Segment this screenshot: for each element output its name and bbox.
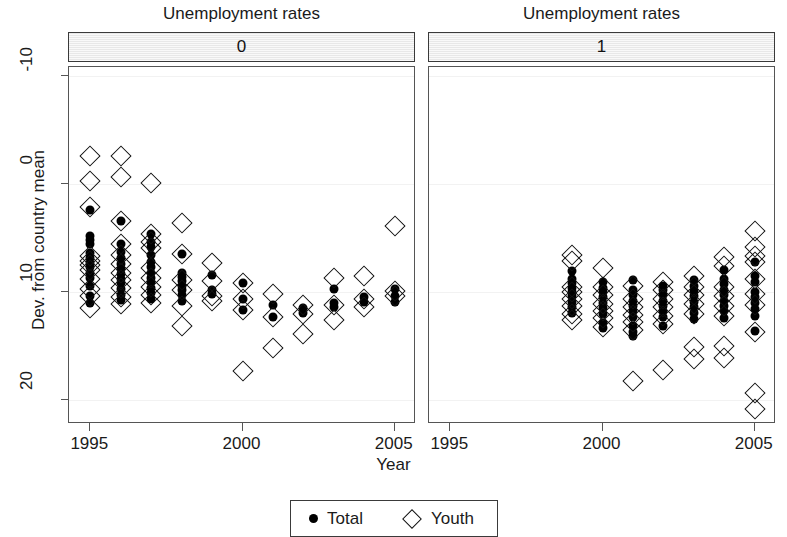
x-tick-mark bbox=[394, 423, 395, 431]
y-tick-label: 20 bbox=[17, 371, 37, 427]
data-point-youth bbox=[232, 360, 253, 381]
gridline bbox=[69, 400, 414, 401]
data-point-youth bbox=[141, 172, 162, 193]
y-tick-mark bbox=[61, 75, 68, 76]
data-point-youth bbox=[171, 315, 192, 336]
data-point-youth bbox=[622, 370, 643, 391]
y-tick-mark bbox=[61, 399, 68, 400]
y-axis-label: Dev. from country mean bbox=[29, 115, 49, 365]
data-point-youth bbox=[110, 145, 131, 166]
data-point-youth bbox=[354, 265, 375, 286]
y-tick-label: -10 bbox=[17, 47, 37, 103]
data-point-youth bbox=[262, 338, 283, 359]
x-tick-label: 2000 bbox=[562, 434, 642, 454]
plot-panel-1 bbox=[428, 66, 775, 423]
data-point-youth bbox=[744, 321, 765, 342]
gridline bbox=[69, 76, 414, 77]
legend-item-total: Total bbox=[309, 509, 363, 529]
x-tick-label: 1995 bbox=[409, 434, 489, 454]
data-point-youth bbox=[262, 306, 283, 327]
strip-label-1: 1 bbox=[429, 37, 774, 57]
data-point-youth bbox=[110, 210, 131, 231]
data-point-youth bbox=[384, 215, 405, 236]
y-tick-mark bbox=[61, 291, 68, 292]
data-point-youth bbox=[714, 347, 735, 368]
gridline bbox=[429, 76, 774, 77]
open-diamond-icon bbox=[402, 509, 422, 529]
panel-title-right: Unemployment rates bbox=[428, 4, 775, 24]
data-point-youth bbox=[80, 196, 101, 217]
data-point-youth bbox=[653, 359, 674, 380]
data-point-youth bbox=[80, 145, 101, 166]
data-point-youth bbox=[293, 324, 314, 345]
x-tick-mark bbox=[89, 423, 90, 431]
data-point-youth bbox=[744, 398, 765, 419]
gridline bbox=[429, 184, 774, 185]
x-tick-mark bbox=[449, 423, 450, 431]
data-point-youth bbox=[323, 267, 344, 288]
data-point-youth bbox=[171, 295, 192, 316]
strip-label-0: 0 bbox=[69, 37, 414, 57]
x-tick-label: 1995 bbox=[49, 434, 129, 454]
data-point-youth bbox=[80, 298, 101, 319]
data-point-youth bbox=[80, 170, 101, 191]
data-point-youth bbox=[262, 284, 283, 305]
x-tick-label: 2005 bbox=[714, 434, 787, 454]
gridline bbox=[429, 400, 774, 401]
x-tick-label: 2000 bbox=[202, 434, 282, 454]
legend-item-youth: Youth bbox=[403, 509, 474, 529]
data-point-youth bbox=[171, 244, 192, 265]
data-point-youth bbox=[232, 300, 253, 321]
x-tick-mark bbox=[602, 423, 603, 431]
legend-label-total: Total bbox=[327, 509, 363, 529]
filled-circle-icon bbox=[309, 514, 318, 523]
legend-label-youth: Youth bbox=[431, 509, 474, 529]
legend: Total Youth bbox=[290, 500, 498, 537]
panel-title-left: Unemployment rates bbox=[68, 4, 415, 24]
x-tick-mark bbox=[242, 423, 243, 431]
x-tick-mark bbox=[754, 423, 755, 431]
data-point-youth bbox=[323, 310, 344, 331]
data-point-youth bbox=[683, 348, 704, 369]
y-tick-mark bbox=[61, 183, 68, 184]
x-axis-label: Year bbox=[0, 455, 787, 475]
strip-header-1: 1 bbox=[428, 32, 775, 62]
plot-panel-0 bbox=[68, 66, 415, 423]
data-point-youth bbox=[171, 212, 192, 233]
strip-header-0: 0 bbox=[68, 32, 415, 62]
